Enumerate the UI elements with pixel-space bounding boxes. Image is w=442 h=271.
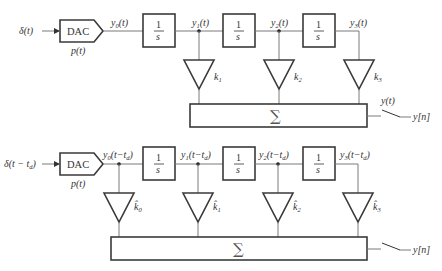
bottom-y2-label: y2(t−td) xyxy=(258,149,290,161)
top-k1-label: k1 xyxy=(214,71,222,83)
top-y1-label: y1(t) xyxy=(191,17,210,29)
bottom-int3-num: 1 xyxy=(316,152,321,163)
top-yt-label: y(t) xyxy=(380,95,396,107)
bottom-int1-den: s xyxy=(156,164,160,175)
bottom-gain-k2 xyxy=(263,193,293,222)
bottom-sigma: ∑ xyxy=(233,240,244,258)
top-input-label: δ(t) xyxy=(19,25,34,37)
top-int2-num: 1 xyxy=(236,19,241,30)
top-y0-label: y0(t) xyxy=(110,17,129,29)
bottom-yn-label: y[n] xyxy=(412,244,430,255)
top-k2-label: k2 xyxy=(294,71,302,83)
top-sampler-switch xyxy=(382,110,400,117)
top-sigma: ∑ xyxy=(270,107,281,125)
top-dac-label: DAC xyxy=(67,26,89,37)
top-int1-num: 1 xyxy=(156,19,161,30)
bottom-input-label: δ(t − td) xyxy=(4,158,37,170)
diagram-canvas: δ(t) DAC p(t) y0(t) 1 s y1(t) 1 s y2(t) … xyxy=(0,0,442,271)
bottom-pulse-label: p(t) xyxy=(70,178,86,190)
top-gain-k1 xyxy=(184,60,214,89)
top-int3-den: s xyxy=(316,31,320,42)
bottom-k1-label: k̂1 xyxy=(213,200,221,213)
bottom-gain-k0 xyxy=(104,193,134,222)
bottom-k2-label: k̂2 xyxy=(293,200,301,213)
top-pulse-label: p(t) xyxy=(70,45,86,57)
bottom-k3-label: k̂3 xyxy=(373,200,381,213)
top-y3-label: y3(t) xyxy=(349,17,368,29)
bottom-gain-k3 xyxy=(343,193,373,222)
top-gain-k3 xyxy=(344,60,374,89)
bottom-gain-k1 xyxy=(183,193,213,222)
bottom-int1-num: 1 xyxy=(156,152,161,163)
top-gain-k2 xyxy=(264,60,294,89)
bottom-int2-num: 1 xyxy=(236,152,241,163)
bottom-int2-den: s xyxy=(236,164,240,175)
top-int2-den: s xyxy=(236,31,240,42)
bottom-sampler-switch xyxy=(382,243,400,250)
top-yn-label: y[n] xyxy=(412,111,430,122)
bottom-y0-label: y0(t−td) xyxy=(102,149,134,161)
bottom-diagram: δ(t − td) DAC p(t) y0(t−td) 1 s y1(t−td)… xyxy=(4,147,430,260)
top-y2-label: y2(t) xyxy=(270,17,289,29)
bottom-int3-den: s xyxy=(316,164,320,175)
bottom-k0-label: k̂0 xyxy=(134,200,142,213)
top-int3-num: 1 xyxy=(316,19,321,30)
bottom-y1-label: y1(t−td) xyxy=(180,149,212,161)
top-diagram: δ(t) DAC p(t) y0(t) 1 s y1(t) 1 s y2(t) … xyxy=(19,14,430,127)
bottom-dac-label: DAC xyxy=(67,159,89,170)
top-wire-y3 xyxy=(335,31,359,60)
top-int1-den: s xyxy=(156,31,160,42)
bottom-y3-label: y3(t−td) xyxy=(339,149,371,161)
top-k3-label: k3 xyxy=(374,71,382,83)
bottom-wire-y3 xyxy=(335,164,358,193)
